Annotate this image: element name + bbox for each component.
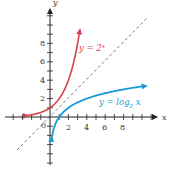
y-tick-label-6: 6 [40,57,45,66]
x-tick-label-4: 4 [84,123,89,132]
identity-line-dashed [17,17,148,150]
exp-curve [28,29,80,115]
y-tick-label-4: 4 [40,76,45,85]
exp-curve-label: y = 2x [78,42,106,54]
x-axis-label: x [162,113,167,122]
x-tick-label-6: 6 [102,123,107,132]
y-axis-label: y [52,0,58,7]
graph-exp-log-inverse: 2 4 6 8 2 4 6 8 0 x y y = 2x y = log2 x [0,0,171,173]
log-curve-label: y = log2 x [98,97,141,109]
x-tick-label-8: 8 [120,123,125,132]
origin-label: 0 [41,121,46,130]
y-tick-label-2: 2 [40,94,45,103]
y-tick-label-8: 8 [40,39,45,48]
x-tick-label-2: 2 [66,123,71,132]
